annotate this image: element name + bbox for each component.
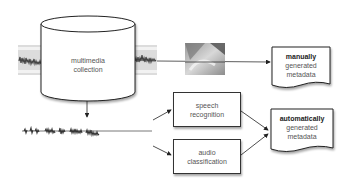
audio-waveform-icon (22, 128, 152, 135)
film-strip-left-icon (18, 45, 42, 75)
arrow-audio-to-auto-metadata (241, 134, 268, 155)
manual-line3: metadata (272, 70, 330, 79)
film-strip-right-icon (134, 45, 157, 75)
handwriting-photo (185, 43, 225, 75)
audio-line1: audio (187, 148, 227, 157)
manual-bold: manually (272, 52, 330, 61)
auto-line2: generated (271, 123, 333, 132)
audio-line2: classification (187, 157, 227, 166)
audio-classification-box: audio classification (173, 139, 241, 174)
arrow-speech-to-auto-metadata (241, 111, 268, 130)
speech-line1: speech (190, 101, 224, 110)
speech-line2: recognition (190, 110, 224, 119)
manual-metadata-label: manually generated metadata (272, 52, 330, 79)
auto-line3: metadata (271, 132, 333, 141)
speech-recognition-box: speech recognition (173, 92, 241, 127)
collection-line1: multimedia (58, 56, 118, 65)
auto-metadata-label: automatically generated metadata (271, 114, 333, 141)
manual-line2: generated (272, 61, 330, 70)
arrow-to-audio-classification (153, 146, 171, 155)
arrow-to-speech-recognition (153, 110, 171, 120)
auto-bold: automatically (271, 114, 333, 123)
collection-line2: collection (58, 65, 118, 74)
multimedia-collection-label: multimedia collection (58, 56, 118, 74)
